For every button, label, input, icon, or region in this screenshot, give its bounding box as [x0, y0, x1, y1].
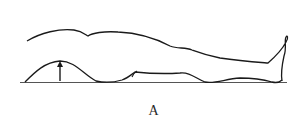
body-lower-outline [25, 61, 282, 82]
figure-caption: A [0, 103, 307, 119]
arrow-up-icon [57, 61, 63, 67]
